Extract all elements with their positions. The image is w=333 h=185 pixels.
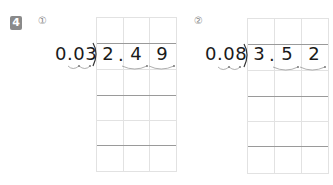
division-brackets-and-arrows	[0, 0, 333, 185]
division-bracket-2	[244, 44, 247, 67]
arrowhead-icon	[78, 65, 326, 68]
shift-arrow-icon	[68, 66, 325, 70]
division-bracket-1	[93, 43, 96, 66]
